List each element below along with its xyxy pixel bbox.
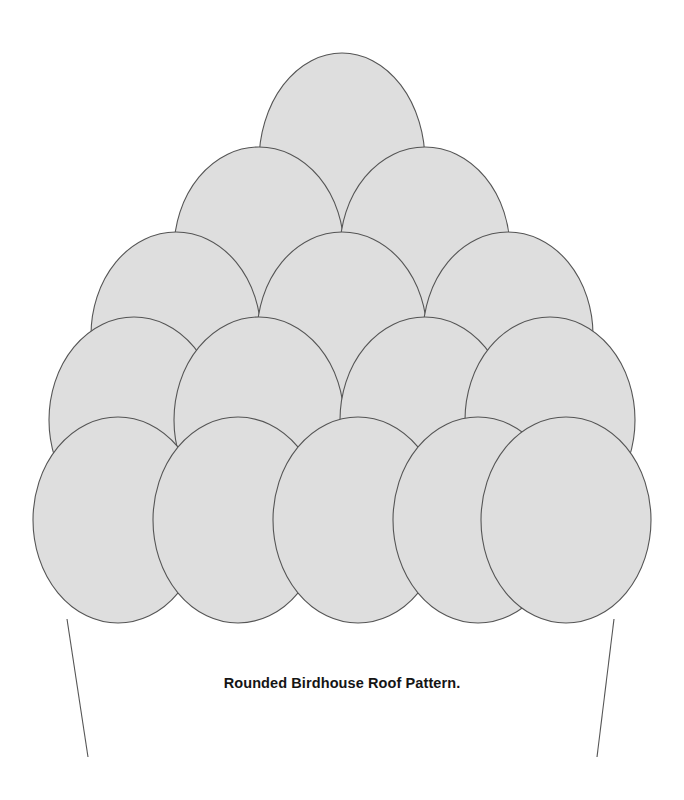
figure-caption: Rounded Birdhouse Roof Pattern. xyxy=(0,675,684,691)
figure-page: Rounded Birdhouse Roof Pattern. xyxy=(0,0,684,800)
shingle xyxy=(481,417,651,623)
shingle-row-5 xyxy=(33,417,651,623)
